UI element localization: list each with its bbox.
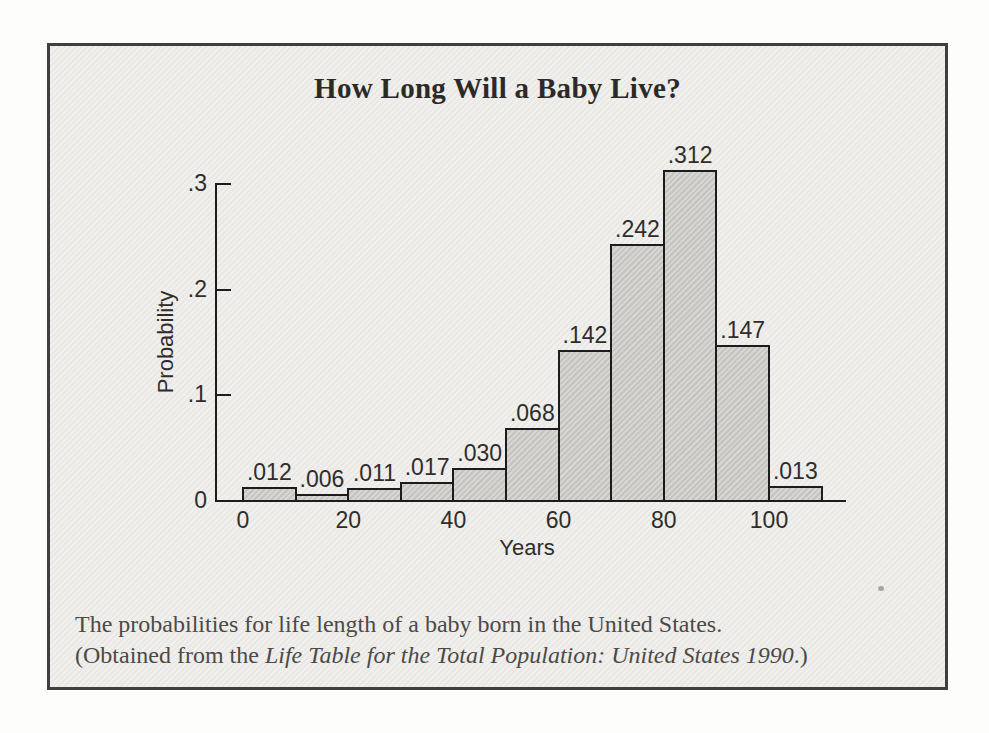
- x-tick-label: 80: [636, 507, 692, 533]
- caption-book-title: Life Table for the Total Population: Uni…: [265, 642, 794, 668]
- histogram-bar: [610, 244, 665, 502]
- caption-line1: The probabilities for life length of a b…: [75, 611, 722, 637]
- caption-line2-suffix: .): [794, 642, 808, 668]
- x-axis-title: Years: [477, 535, 577, 561]
- y-axis-tick: [217, 289, 231, 291]
- x-axis-line: [215, 500, 846, 502]
- x-tick-label: 100: [741, 507, 797, 533]
- histogram-bar: [400, 482, 455, 502]
- scanned-page: How Long Will a Baby Live? .012.006.011.…: [0, 0, 989, 733]
- histogram-bar: [505, 428, 560, 502]
- y-tick-label: .3: [161, 170, 207, 196]
- bar-value-label: .147: [707, 318, 779, 342]
- figure-box: How Long Will a Baby Live? .012.006.011.…: [47, 43, 948, 690]
- x-tick-label: 40: [425, 507, 481, 533]
- y-tick-label: 0: [161, 487, 207, 513]
- y-axis-tick: [217, 394, 231, 396]
- histogram-bar: [558, 350, 613, 502]
- bar-value-label: .013: [759, 459, 831, 483]
- caption-line2-prefix: (Obtained from the: [75, 642, 265, 668]
- bar-value-label: .312: [654, 143, 726, 167]
- histogram-plot: .012.006.011.017.030.068.142.242.312.147…: [50, 46, 945, 687]
- x-tick-label: 60: [531, 507, 587, 533]
- y-axis-tick: [217, 183, 231, 185]
- histogram-bar: [452, 468, 507, 502]
- paper-speck: [878, 586, 884, 591]
- figure-caption: The probabilities for life length of a b…: [75, 609, 835, 671]
- x-tick-label: 20: [320, 507, 376, 533]
- x-tick-label: 0: [215, 507, 271, 533]
- y-axis-title: Probability: [153, 291, 179, 394]
- y-axis-line: [215, 183, 217, 502]
